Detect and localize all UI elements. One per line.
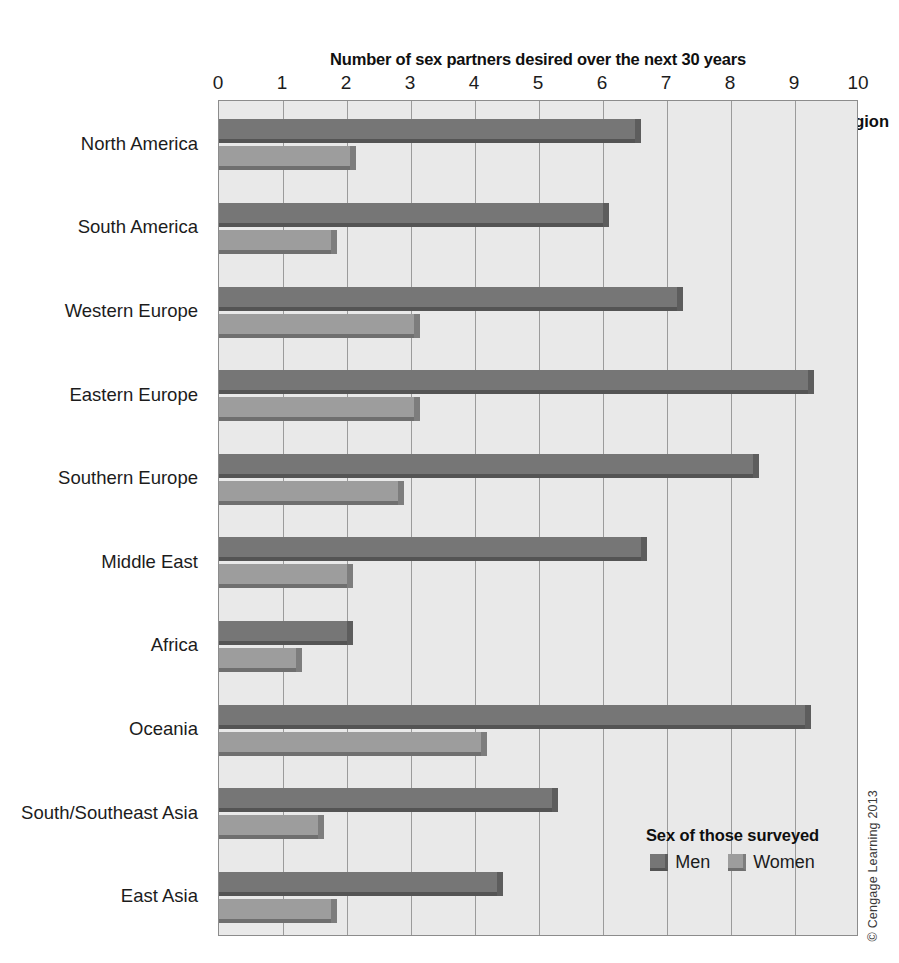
bar-end-cap [414, 314, 420, 338]
y-axis-label: Oceania [129, 718, 198, 740]
bar-men [219, 370, 808, 394]
x-tick-label: 5 [533, 72, 544, 94]
bar-body [219, 397, 414, 421]
x-tick-label: 1 [277, 72, 288, 94]
bar-men [219, 454, 753, 478]
bar-women [219, 314, 414, 338]
gridline [795, 101, 796, 935]
bar-body [219, 230, 331, 254]
bar-end-cap [398, 481, 404, 505]
gridline [731, 101, 732, 935]
bar-end-cap [603, 203, 609, 227]
x-tick-label: 10 [847, 72, 868, 94]
bar-body [219, 899, 331, 923]
bar-men [219, 705, 805, 729]
gridline [667, 101, 668, 935]
bar-women [219, 230, 331, 254]
bar-end-cap [497, 872, 503, 896]
x-tick-label: 7 [661, 72, 672, 94]
bar-body [219, 564, 347, 588]
bar-body [219, 537, 641, 561]
bar-chart-figure: Number of sex partners desired over the … [0, 0, 899, 963]
bar-body [219, 872, 497, 896]
bar-women [219, 899, 331, 923]
y-axis-label: South/Southeast Asia [21, 802, 198, 824]
bar-men [219, 788, 552, 812]
y-axis-label: North America [81, 133, 198, 155]
bar-end-cap [296, 648, 302, 672]
legend-swatch-icon [650, 854, 668, 871]
bar-body [219, 119, 635, 143]
legend-label: Women [753, 852, 815, 873]
bar-body [219, 146, 350, 170]
bar-women [219, 564, 347, 588]
bar-end-cap [635, 119, 641, 143]
bar-body [219, 370, 808, 394]
bar-men [219, 872, 497, 896]
y-axis-label: Africa [151, 634, 198, 656]
bar-men [219, 621, 347, 645]
bar-women [219, 815, 318, 839]
bar-end-cap [350, 146, 356, 170]
legend-entries: MenWomen [625, 852, 840, 873]
x-axis-tick-labels: 012345678910 [218, 72, 858, 96]
bar-end-cap [347, 621, 353, 645]
bar-end-cap [753, 454, 759, 478]
y-axis-label: Eastern Europe [69, 384, 198, 406]
x-tick-label: 8 [725, 72, 736, 94]
chart-title: Number of sex partners desired over the … [218, 50, 858, 69]
x-tick-label: 0 [213, 72, 224, 94]
legend-label: Men [675, 852, 710, 873]
legend-swatch-icon [728, 854, 746, 871]
x-tick-label: 6 [597, 72, 608, 94]
legend-entry: Women [728, 852, 815, 873]
y-axis-label: South America [78, 216, 198, 238]
x-tick-label: 4 [469, 72, 480, 94]
x-tick-label: 2 [341, 72, 352, 94]
bar-end-cap [805, 705, 811, 729]
bar-women [219, 146, 350, 170]
bar-women [219, 481, 398, 505]
legend-entry: Men [650, 852, 710, 873]
bar-end-cap [347, 564, 353, 588]
bar-women [219, 732, 481, 756]
plot-area [218, 100, 858, 936]
bar-body [219, 788, 552, 812]
bar-body [219, 203, 603, 227]
x-tick-label: 9 [789, 72, 800, 94]
bar-men [219, 537, 641, 561]
bar-body [219, 815, 318, 839]
bar-body [219, 314, 414, 338]
bar-end-cap [641, 537, 647, 561]
bar-body [219, 705, 805, 729]
bar-end-cap [414, 397, 420, 421]
bar-body [219, 481, 398, 505]
bar-women [219, 397, 414, 421]
bar-end-cap [331, 230, 337, 254]
y-axis-label: Southern Europe [58, 467, 198, 489]
bar-end-cap [552, 788, 558, 812]
bar-end-cap [677, 287, 683, 311]
copyright-credit: © Cengage Learning 2013 [866, 790, 880, 941]
y-axis-label: Middle East [101, 551, 198, 573]
bar-body [219, 621, 347, 645]
bar-men [219, 119, 635, 143]
bar-men [219, 203, 603, 227]
bar-body [219, 732, 481, 756]
bar-body [219, 648, 296, 672]
y-axis-label: Western Europe [65, 300, 198, 322]
legend: Sex of those surveyed MenWomen [625, 826, 840, 873]
bar-end-cap [808, 370, 814, 394]
y-axis-label: East Asia [121, 885, 198, 907]
bar-body [219, 454, 753, 478]
y-axis-category-labels: North AmericaSouth AmericaWestern Europe… [0, 100, 208, 936]
x-tick-label: 3 [405, 72, 416, 94]
bar-end-cap [331, 899, 337, 923]
bar-men [219, 287, 677, 311]
bar-body [219, 287, 677, 311]
legend-title: Sex of those surveyed [625, 826, 840, 845]
bar-end-cap [318, 815, 324, 839]
bar-women [219, 648, 296, 672]
bar-end-cap [481, 732, 487, 756]
